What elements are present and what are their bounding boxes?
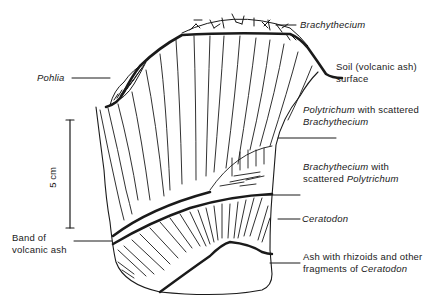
label-band-line2: volcanic ash: [12, 244, 67, 256]
brachythecium-cap: [182, 14, 308, 46]
label-ash-line2-plain: fragments of: [303, 263, 361, 274]
label-ceratodon: Ceratodon: [302, 213, 348, 225]
label-pohlia: Pohlia: [37, 72, 65, 84]
label-brachythecium-top: Brachythecium: [300, 19, 365, 31]
label-soil-surface: Soil (volcanic ash) surface: [336, 61, 417, 85]
label-ash-line1: Ash with rhizoids and other: [303, 251, 422, 263]
label-brach-italic: Brachythecium: [303, 161, 368, 172]
label-volcanic-ash-band: Band of volcanic ash: [12, 232, 67, 256]
label-band-line1: Band of: [12, 232, 67, 244]
label-ash-line2-italic: Ceratodon: [361, 263, 407, 274]
label-poly-italic: Polytrichum: [303, 104, 355, 115]
label-soil-line2: surface: [336, 73, 417, 85]
label-polytrichum: Polytrichum with scattered Brachythecium: [303, 104, 419, 128]
label-poly-rest: with scattered: [355, 104, 419, 115]
label-brachythecium-wedge: Brachythecium with scattered Polytrichum: [303, 161, 399, 185]
label-brach-rest: with: [368, 161, 389, 172]
label-soil-line1: Soil (volcanic ash): [336, 61, 417, 73]
label-brach-line2-italic: Polytrichum: [347, 173, 399, 184]
brachythecium-wedge: [210, 146, 272, 190]
ceratodon-lower-boundary: [160, 242, 272, 292]
label-poly-line2: Brachythecium: [303, 116, 368, 127]
label-scale-5cm: 5 cm: [47, 167, 58, 188]
label-ash-rhizoids: Ash with rhizoids and other fragments of…: [303, 251, 422, 275]
label-brach-line2-plain: scattered: [303, 173, 347, 184]
profile-outline: [96, 72, 318, 295]
scale-bar: [66, 120, 74, 228]
